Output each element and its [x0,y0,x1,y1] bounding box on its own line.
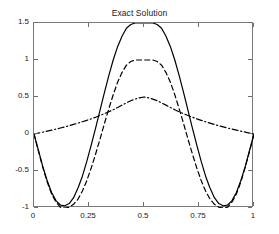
y-tick-mark [248,133,252,134]
y-tick-mark [248,59,252,60]
y-tick-mark [248,96,252,97]
x-tick-mark [198,23,199,27]
x-tick-label: 1 [238,212,268,220]
x-tick-mark [33,23,34,27]
y-tick-label: 0 [3,129,29,137]
x-tick-mark [143,202,144,206]
series-line-solid [34,23,254,206]
y-tick-mark [34,96,38,97]
x-tick-mark [143,23,144,27]
x-tick-label: 0.75 [183,212,213,220]
x-tick-mark [33,202,34,206]
x-tick-mark [88,202,89,206]
y-tick-label: 1 [3,55,29,63]
x-tick-mark [253,23,254,27]
y-tick-mark [34,170,38,171]
y-tick-label: 1.5 [3,18,29,26]
x-tick-label: 0 [18,212,48,220]
y-tick-label: 0.5 [3,92,29,100]
x-tick-label: 0.5 [128,212,158,220]
y-tick-mark [248,207,252,208]
y-tick-label: -1 [3,203,29,211]
x-tick-mark [253,202,254,206]
x-tick-label: 0.25 [73,212,103,220]
y-tick-mark [34,59,38,60]
chart-title: Exact Solution [0,8,279,19]
y-tick-mark [34,133,38,134]
y-tick-mark [248,22,252,23]
plot-canvas [34,23,254,208]
figure-container: Exact Solution -1-0.500.511.5 00.250.50.… [0,0,279,234]
y-tick-mark [248,170,252,171]
series-line-dashed [34,60,254,208]
x-tick-mark [88,23,89,27]
plot-area [33,22,253,207]
y-tick-mark [34,207,38,208]
y-tick-label: -0.5 [3,166,29,174]
y-tick-mark [34,22,38,23]
x-tick-mark [198,202,199,206]
series-line-dash-dot [34,97,254,134]
